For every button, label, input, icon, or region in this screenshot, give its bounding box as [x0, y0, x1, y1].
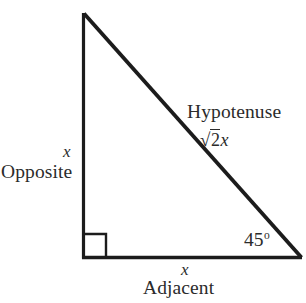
radicand-value: 2	[210, 129, 220, 150]
angle-label: 45o	[244, 229, 269, 249]
radical-sign-icon: √	[200, 129, 210, 150]
hypotenuse-variable: x	[220, 130, 228, 150]
hypotenuse-value-label: √2x	[200, 130, 228, 149]
hypotenuse-label: Hypotenuse	[187, 102, 281, 122]
hypotenuse-line	[84, 14, 302, 258]
angle-value: 45	[244, 229, 264, 250]
adjacent-variable-label: x	[181, 261, 189, 278]
right-angle-marker-icon	[85, 234, 106, 256]
triangle-graphic	[0, 0, 306, 303]
triangle-diagram-canvas: Hypotenuse √2x x Opposite x Adjacent 45o	[0, 0, 306, 303]
opposite-variable-label: x	[63, 143, 71, 160]
opposite-label: Opposite	[1, 162, 72, 182]
degree-symbol-icon: o	[264, 229, 270, 241]
adjacent-label: Adjacent	[143, 278, 214, 298]
